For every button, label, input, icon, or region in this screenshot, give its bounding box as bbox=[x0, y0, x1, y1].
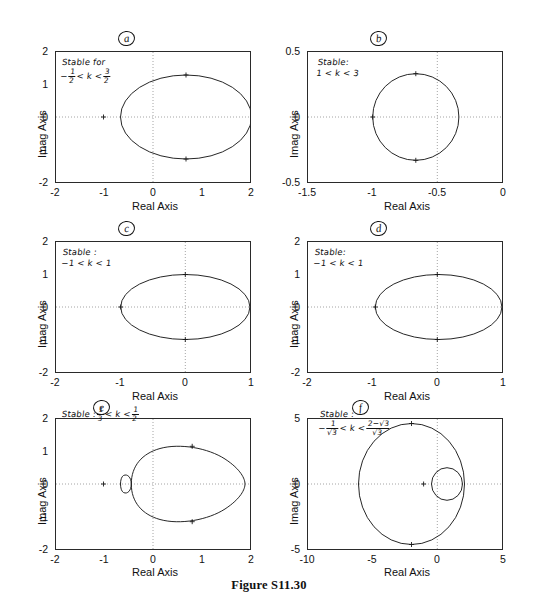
panel-e-ytick-3: -1 bbox=[28, 511, 48, 523]
panel-a-ytick-1: 1 bbox=[28, 78, 48, 90]
panel-f-xtick-2: 0 bbox=[423, 553, 451, 565]
panel-letter-b: b bbox=[370, 31, 387, 46]
panel-a-ytick-0: 2 bbox=[28, 45, 48, 57]
panel-e-plot-svg bbox=[56, 419, 250, 549]
panel-f-x-axis-label: Real Axis bbox=[357, 566, 457, 578]
panel-letter-f: f bbox=[352, 400, 369, 415]
panel-a-xtick-1: -1 bbox=[92, 186, 116, 198]
panel-e-ytick-0: 2 bbox=[28, 412, 48, 424]
panel-f-xtick-3: 5 bbox=[489, 553, 517, 565]
panel-b-ytick-1: 0 bbox=[272, 111, 300, 123]
figure-caption: Figure S11.30 bbox=[0, 578, 538, 593]
panel-e-xtick-2: 0 bbox=[141, 553, 165, 565]
panel-b-ytick-0: 0.5 bbox=[272, 45, 300, 57]
panel-letter-d: d bbox=[370, 221, 387, 236]
panel-c-ytick-1: 1 bbox=[28, 268, 48, 280]
panel-b-xtick-0: -1.5 bbox=[292, 186, 322, 198]
panel-letter-c: c bbox=[118, 221, 135, 236]
panel-d-markers bbox=[373, 272, 440, 342]
panel-d-xtick-1: -1 bbox=[360, 376, 384, 388]
panel-d-ytick-2: 0 bbox=[280, 301, 300, 313]
panel-c-x-axis-label: Real Axis bbox=[105, 390, 205, 402]
panel-f-plot-area bbox=[307, 418, 503, 550]
panel-c-ytick-3: -1 bbox=[28, 334, 48, 346]
panel-e-ytick-2: 0 bbox=[28, 478, 48, 490]
panel-f-plot-svg bbox=[308, 419, 502, 549]
panel-c-xtick-0: -2 bbox=[43, 376, 67, 388]
panel-c-xtick-2: 0 bbox=[173, 376, 197, 388]
panel-a-xtick-0: -2 bbox=[43, 186, 67, 198]
panel-d-annotation-line1: Stable: bbox=[314, 247, 365, 258]
panel-f-annotation-line2: −1√3< k <2−√3√3 bbox=[317, 420, 391, 436]
panel-c-xtick-1: -1 bbox=[108, 376, 132, 388]
panel-e-xtick-0: -2 bbox=[43, 553, 67, 565]
panel-a-ytick-3: -1 bbox=[28, 144, 48, 156]
panel-d-ytick-3: -1 bbox=[280, 334, 300, 346]
panel-e-x-axis-label: Real Axis bbox=[105, 566, 205, 578]
panel-f-locus-inner-circle bbox=[432, 468, 463, 501]
panel-b-annotation: Stable: 1 < k < 3 bbox=[316, 57, 361, 80]
panel-a-xtick-4: 2 bbox=[239, 186, 263, 198]
panel-e-xtick-1: -1 bbox=[92, 553, 116, 565]
panel-d-xtick-2: 0 bbox=[425, 376, 449, 388]
panel-c-ytick-0: 2 bbox=[28, 235, 48, 247]
panel-b-xtick-1: -1 bbox=[357, 186, 387, 198]
figure-sheet: a Imag Axis 2 1 0 -1 -2 Stable for −12< … bbox=[0, 0, 538, 601]
panel-d-x-axis-label: Real Axis bbox=[357, 390, 457, 402]
panel-a-markers bbox=[101, 73, 189, 162]
panel-e-xtick-4: 2 bbox=[239, 553, 263, 565]
panel-c-annotation-line2: −1 < k < 1 bbox=[61, 258, 112, 269]
panel-f-markers bbox=[409, 421, 426, 547]
panel-b-annotation-line1: Stable: bbox=[317, 57, 361, 68]
panel-e-xtick-3: 1 bbox=[190, 553, 214, 565]
panel-f-xtick-0: -10 bbox=[293, 553, 321, 565]
panel-d-ytick-0: 2 bbox=[280, 235, 300, 247]
panel-a-xtick-3: 1 bbox=[190, 186, 214, 198]
panel-f-xtick-1: -5 bbox=[358, 553, 386, 565]
panel-e-markers bbox=[101, 444, 195, 524]
panel-letter-a: a bbox=[118, 31, 135, 46]
panel-e-ytick-1: 1 bbox=[28, 445, 48, 457]
panel-b-locus-circle bbox=[373, 74, 459, 161]
panel-b-xtick-2: -0.5 bbox=[422, 186, 452, 198]
panel-f-ytick-1: 0 bbox=[280, 478, 300, 490]
panel-e-plot-area bbox=[55, 418, 251, 550]
panel-a-ytick-2: 0 bbox=[28, 111, 48, 123]
panel-f-ytick-0: 5 bbox=[280, 412, 300, 424]
panel-c-annotation-line1: Stable : bbox=[62, 247, 113, 258]
panel-d-annotation-line2: −1 < k < 1 bbox=[313, 258, 364, 269]
panel-a-x-axis-label: Real Axis bbox=[105, 200, 205, 212]
panel-a-annotation-line2: −12< k <32 bbox=[59, 68, 112, 84]
panel-d-ytick-1: 1 bbox=[280, 268, 300, 280]
panel-a-xtick-2: 0 bbox=[141, 186, 165, 198]
panel-a-annotation: Stable for −12< k <32 bbox=[59, 57, 113, 84]
panel-c-ytick-2: 0 bbox=[28, 301, 48, 313]
panel-b-annotation-line2: 1 < k < 3 bbox=[316, 68, 360, 79]
panel-d-xtick-3: 1 bbox=[491, 376, 515, 388]
panel-d-annotation: Stable: −1 < k < 1 bbox=[313, 247, 366, 270]
panel-b-x-axis-label: Real Axis bbox=[357, 200, 457, 212]
panel-b-xtick-3: 0 bbox=[488, 186, 518, 198]
panel-d-xtick-0: -2 bbox=[295, 376, 319, 388]
panel-letter-e: e bbox=[93, 400, 110, 415]
panel-c-annotation: Stable : −1 < k < 1 bbox=[61, 247, 114, 270]
panel-c-xtick-3: 1 bbox=[239, 376, 263, 388]
